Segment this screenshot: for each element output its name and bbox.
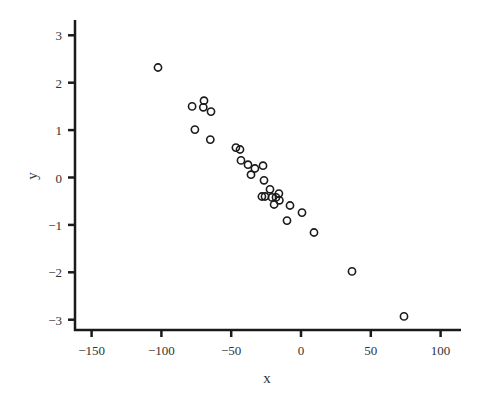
y-ticks: −3−2−10123 bbox=[48, 28, 75, 327]
data-points bbox=[154, 64, 407, 320]
y-axis: −3−2−10123 y bbox=[24, 20, 75, 331]
data-point bbox=[207, 108, 214, 115]
y-tick-label: −1 bbox=[48, 218, 62, 233]
data-point bbox=[154, 64, 161, 71]
data-point bbox=[207, 136, 214, 143]
scatter-chart: −3−2−10123 y −150−100−50050100 x bbox=[0, 0, 483, 405]
data-point bbox=[244, 161, 251, 168]
y-axis-title: y bbox=[24, 172, 40, 180]
x-tick-label: −150 bbox=[78, 343, 105, 358]
data-point bbox=[266, 186, 273, 193]
x-tick-label: 50 bbox=[364, 343, 377, 358]
data-point bbox=[191, 126, 198, 133]
y-tick-label: 0 bbox=[56, 171, 63, 186]
data-point bbox=[310, 229, 317, 236]
x-tick-label: 100 bbox=[431, 343, 451, 358]
y-tick-label: −2 bbox=[48, 265, 62, 280]
x-axis-title: x bbox=[263, 370, 271, 386]
x-axis: −150−100−50050100 x bbox=[74, 330, 461, 386]
data-point bbox=[283, 217, 290, 224]
x-tick-label: −100 bbox=[148, 343, 175, 358]
y-tick-label: 3 bbox=[56, 28, 63, 43]
data-point bbox=[298, 209, 305, 216]
y-tick-label: −3 bbox=[48, 313, 62, 328]
data-point bbox=[237, 157, 244, 164]
data-point bbox=[260, 177, 267, 184]
x-tick-label: −50 bbox=[221, 343, 241, 358]
data-point bbox=[259, 162, 266, 169]
data-point bbox=[247, 171, 254, 178]
data-point bbox=[400, 313, 407, 320]
x-ticks: −150−100−50050100 bbox=[78, 330, 450, 358]
data-point bbox=[286, 202, 293, 209]
data-point bbox=[189, 103, 196, 110]
x-tick-label: 0 bbox=[298, 343, 305, 358]
y-tick-label: 2 bbox=[56, 76, 63, 91]
data-point bbox=[348, 268, 355, 275]
y-tick-label: 1 bbox=[56, 123, 63, 138]
